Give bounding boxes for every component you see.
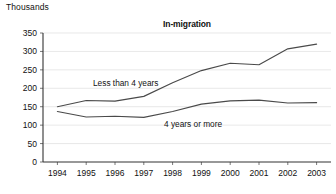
x-tick-label: 1994 bbox=[48, 168, 67, 178]
x-tick-label: 2003 bbox=[307, 168, 326, 178]
plot-area: 050100150200250300350 199419951996199719… bbox=[0, 0, 336, 194]
y-tick-label: 200 bbox=[23, 83, 37, 93]
series-line bbox=[57, 100, 316, 117]
y-tick-label: 350 bbox=[23, 28, 37, 38]
in-migration-line-chart: Thousands In-migration 05010015020025030… bbox=[0, 0, 336, 194]
x-axis-ticks: 1994199519961997199819992000200120022003 bbox=[48, 162, 326, 178]
x-tick-label: 2001 bbox=[250, 168, 269, 178]
series-line bbox=[57, 44, 316, 107]
y-axis-ticks: 050100150200250300350 bbox=[23, 28, 43, 167]
x-tick-label: 1995 bbox=[77, 168, 96, 178]
x-tick-label: 1998 bbox=[163, 168, 182, 178]
y-tick-label: 150 bbox=[23, 102, 37, 112]
y-tick-label: 300 bbox=[23, 46, 37, 56]
x-tick-label: 2000 bbox=[221, 168, 240, 178]
y-tick-label: 50 bbox=[28, 139, 38, 149]
y-tick-label: 250 bbox=[23, 65, 37, 75]
series-annotation: Less than 4 years bbox=[93, 78, 159, 88]
y-tick-label: 0 bbox=[32, 157, 37, 167]
x-tick-label: 1997 bbox=[134, 168, 153, 178]
x-tick-label: 1996 bbox=[106, 168, 125, 178]
y-tick-label: 100 bbox=[23, 120, 37, 130]
series-annotation: 4 years or more bbox=[164, 119, 222, 129]
x-tick-label: 2002 bbox=[278, 168, 297, 178]
x-tick-label: 1999 bbox=[192, 168, 211, 178]
